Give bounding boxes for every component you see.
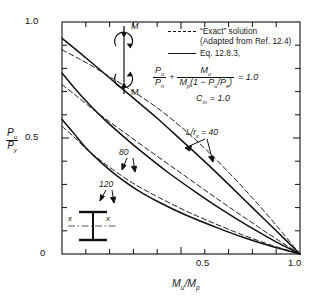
x-tick-label-05: 0.5: [196, 258, 209, 268]
chart-legend: “Exact” solution (Adapted from Ref. 12.4…: [168, 27, 291, 59]
legend-item-equation: Eq. 12.8.3,: [168, 49, 291, 58]
x-title-den-sub: p: [196, 284, 200, 291]
y-title-num-sub: u: [14, 133, 17, 140]
y-title-den-sub: y: [14, 146, 17, 153]
eq-term-moment: Mu Mp(1 − Pu/Pe): [177, 66, 234, 90]
y-tick-label-0: 0: [40, 248, 45, 258]
x-tick-label-1: 1.0: [288, 258, 301, 268]
dashed-line-swatch: [168, 27, 196, 36]
i-section-diagram: [68, 212, 118, 240]
annotation-arrows-120: [100, 190, 116, 203]
y-title-den: P: [7, 140, 14, 151]
eq-equals-value: = 1.0: [238, 73, 258, 82]
annotation-arrows-80: [122, 158, 137, 172]
curve-label-lr80: 80: [119, 148, 129, 157]
section-axis-label-right: x: [106, 215, 110, 223]
x-title-den: M: [187, 277, 196, 289]
x-axis-title: Mu/Mp: [172, 278, 200, 292]
x-title-num: M: [172, 277, 181, 289]
curve: [62, 85, 300, 254]
right-axis-ticks: [293, 45, 300, 231]
annotation-arrows-40: [185, 139, 214, 162]
curve-label-lr40: L/rx = 40: [186, 128, 218, 139]
curve-label-lr120: 120: [99, 180, 113, 189]
y-title-num: P: [7, 127, 14, 138]
interaction-equation: Pu Pn + Mu Mp(1 − Pu/Pe) = 1.0: [152, 66, 258, 90]
legend-label-equation: Eq. 12.8.3,: [200, 49, 240, 57]
y-tick-label-05: 0.5: [25, 132, 38, 142]
eq-plus-sign: +: [169, 73, 174, 82]
section-axis-label-left: x: [68, 215, 72, 223]
eq-term-axial: Pu Pn: [153, 66, 166, 90]
moment-label-bottom: M: [131, 88, 139, 97]
y-tick-label-1: 1.0: [25, 16, 38, 26]
legend-source-reference: (Adapted from Ref. 12.4): [200, 37, 291, 45]
y-axis-ticks: [62, 45, 69, 231]
y-axis-title: Pu Py: [6, 128, 18, 153]
x-axis-ticks: [86, 247, 276, 254]
cm-coefficient: Cm = 1.0: [196, 94, 230, 105]
legend-label-exact: “Exact” solution: [200, 27, 257, 35]
moment-label-top: M: [131, 22, 139, 31]
solid-line-swatch: [168, 49, 196, 58]
legend-item-exact: “Exact” solution: [168, 27, 291, 36]
curve: [62, 73, 300, 254]
